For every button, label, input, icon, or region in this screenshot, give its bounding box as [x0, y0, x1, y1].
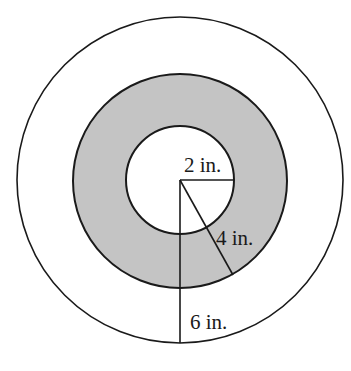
middle-radius-label: 4 in.	[216, 226, 253, 250]
outer-radius-label: 6 in.	[190, 310, 227, 334]
concentric-circles-diagram: 2 in. 4 in. 6 in.	[0, 0, 351, 371]
inner-radius-label: 2 in.	[184, 153, 221, 177]
